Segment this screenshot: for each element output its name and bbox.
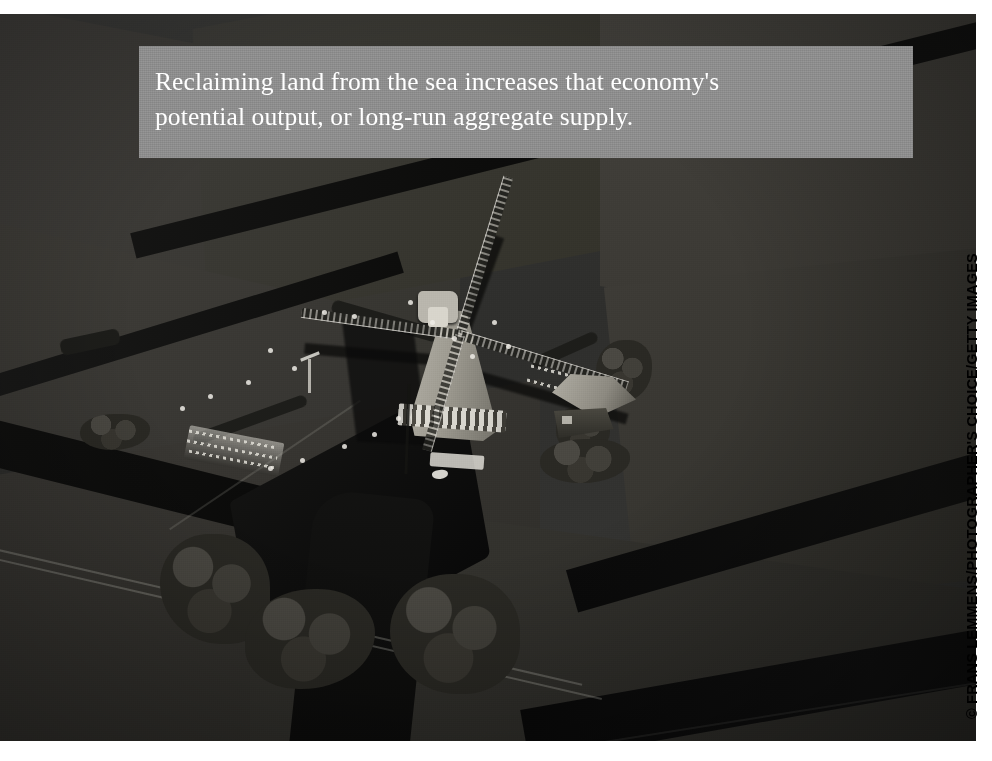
livestock-marker: [506, 344, 511, 349]
livestock-marker: [408, 300, 413, 305]
weather-vane: [308, 359, 311, 393]
livestock-marker: [292, 366, 297, 371]
livestock-marker: [180, 406, 185, 411]
livestock-marker: [492, 320, 497, 325]
livestock-marker: [342, 444, 347, 449]
livestock-marker: [268, 348, 273, 353]
livestock-marker: [246, 380, 251, 385]
figure-caption-line-1: Reclaiming land from the sea increases t…: [155, 64, 891, 99]
livestock-marker: [452, 336, 457, 341]
figure-page: Reclaiming land from the sea increases t…: [0, 0, 992, 761]
livestock-marker: [352, 314, 357, 319]
livestock-marker: [396, 416, 401, 421]
farmhouse-window: [562, 416, 572, 424]
photo-credit: © FRANS LEMMENS/PHOTOGRAPHER'S CHOICE/GE…: [952, 14, 992, 741]
livestock-marker: [322, 310, 327, 315]
livestock-marker: [300, 458, 305, 463]
livestock-marker: [208, 394, 213, 399]
windmill-sail-north: [455, 176, 513, 337]
livestock-marker: [268, 466, 273, 471]
figure-caption-box: Reclaiming land from the sea increases t…: [139, 46, 913, 158]
livestock-marker: [470, 354, 475, 359]
figure-caption-line-2: potential output, or long-run aggregate …: [155, 99, 891, 134]
farmhouse: [552, 374, 636, 444]
photo-credit-text: © FRANS LEMMENS/PHOTOGRAPHER'S CHOICE/GE…: [964, 253, 980, 719]
livestock-marker: [430, 320, 435, 325]
tree-cluster-canal-right: [390, 574, 520, 694]
livestock-marker: [372, 432, 377, 437]
